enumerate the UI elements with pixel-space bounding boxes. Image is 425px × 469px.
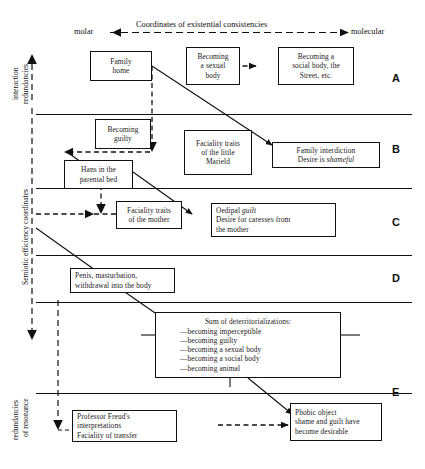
line-to-penis-box [36,228,95,270]
box-freud-interpretations[interactable]: Professor Freud's interpretations Facial… [72,410,177,442]
vlabel-redundancies: redundancies [11,400,20,440]
box-penis-masturbation-line1: Penis, masturbation, [75,271,172,280]
box-faciality-mother-line2: of the mother [119,215,179,224]
box-freud-line1: Professor Freud's [77,412,174,421]
resonance-feed-line [53,300,72,430]
box-oedipal-guilt-line2: Desire for caresses from [216,215,333,224]
box-sum-item-2: —becoming a sexual body [158,345,338,354]
box-oedipal-guilt[interactable]: Oedipal guilt Desire for caresses from t… [211,203,336,237]
vlabel-interaction-redundancies: redundancies [21,64,30,104]
box-becoming-sexual-body-line1: Becoming [189,52,237,61]
box-freud-line3: Faciality of transfer [77,431,174,440]
box-hans-parental-bed-line1: Hans in the [67,165,130,174]
box-becoming-social-body-line2: social body, the [281,61,351,70]
box-becoming-social-body-line3: Street, etc. [281,71,351,80]
box-sum-item-0: —becoming imperceptible [158,327,338,336]
row-letter-b: B [392,143,400,155]
box-family-home-line1: Family [93,57,149,66]
vlabel-interaction: interaction [11,68,20,100]
box-sum-title: Sum of deterritorializations: [158,317,338,326]
box-oedipal-guilt-emphasis: guilt [242,206,256,215]
box-faciality-marield[interactable]: Faciality traits of the little Marield [184,130,252,175]
box-becoming-social-body[interactable]: Becoming a social body, the Street, etc. [278,47,354,85]
vlabel-semiotic-efficiency: Semiotic efficiency coordinates [21,189,30,285]
box-freud-line2: interpretations [77,421,174,430]
axis-label-molar: molar [74,27,93,36]
row-letter-c: C [392,216,400,228]
box-oedipal-guilt-line1-text: Oedipal [216,206,242,215]
box-family-interdiction-emphasis: shameful [327,155,355,164]
box-becoming-guilty-line2: guilty [98,134,148,143]
box-phobic-line2: shame and guilt have [295,417,379,426]
box-oedipal-guilt-line1: Oedipal guilt [216,206,333,215]
box-phobic-line1: Phobic object [295,408,379,417]
box-faciality-marield-line1: Faciality traits [187,139,249,148]
box-sum-item-4: —becoming animal [158,364,338,373]
box-becoming-sexual-body-line3: body [189,71,237,80]
box-family-interdiction-line1: Family interdiction [275,146,377,155]
box-family-interdiction-line2: Desire is shameful [275,155,377,164]
box-faciality-marield-line3: Marield [187,157,249,166]
box-penis-masturbation-line2: withdrawal into the body [75,281,172,290]
box-becoming-social-body-line1: Becoming a [281,52,351,61]
box-family-interdiction-line2-text: Desire is [298,155,327,164]
box-becoming-sexual-body[interactable]: Becoming a sexual body [186,47,240,85]
arrow-hans-down [96,185,106,214]
box-family-home[interactable]: Family home [90,51,152,81]
box-sum-deterritorializations[interactable]: Sum of deterritorializations: —becoming … [155,312,341,378]
row-letter-d: D [392,272,400,284]
row-letter-a: A [392,72,400,84]
top-axis-label: Coordinates of existential consistencies [136,20,267,29]
box-sum-item-3: —becoming a social body [158,354,338,363]
arrow-left-margin-to-faciality-mother [36,210,116,219]
box-becoming-guilty-line1: Becoming [98,125,148,134]
row-letter-e: E [392,386,399,398]
box-hans-parental-bed[interactable]: Hans in the parental bed [64,160,133,189]
box-becoming-sexual-body-line2: a sexual [189,61,237,70]
box-faciality-marield-line2: of the little [187,148,249,157]
box-penis-masturbation[interactable]: Penis, masturbation, withdrawal into the… [70,268,175,293]
line-sum-to-phobic [248,378,292,414]
box-family-interdiction[interactable]: Family interdiction Desire is shameful [272,142,380,168]
box-hans-parental-bed-line2: parental bed [67,175,130,184]
box-faciality-mother-line1: Faciality traits [119,206,179,215]
box-sum-item-1: —becoming guilty [158,336,338,345]
figure-canvas: Coordinates of existential consistencies… [0,0,425,469]
box-phobic-object[interactable]: Phobic object shame and guilt have becom… [290,403,382,441]
box-family-home-line2: home [93,66,149,75]
box-becoming-guilty[interactable]: Becoming guilty [95,119,151,149]
top-axis [110,28,348,37]
axis-label-molecular: molecular [351,27,384,36]
box-phobic-line3: become desirable [295,427,379,436]
box-oedipal-guilt-line3: the mother [216,225,333,234]
box-faciality-mother[interactable]: Faciality traits of the mother [116,201,182,229]
vlabel-of-resonance: of resonance [21,398,30,437]
